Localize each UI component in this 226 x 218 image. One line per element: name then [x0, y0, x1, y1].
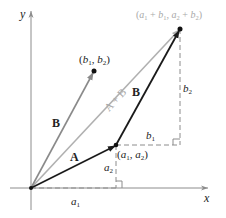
- origin-point: [29, 186, 33, 190]
- right-angle-markers: [116, 139, 180, 188]
- label-b-translated: B: [132, 85, 140, 99]
- vector-addition-diagram: x y A: [0, 0, 226, 218]
- right-angle-icon: [116, 181, 122, 188]
- y-axis-label: y: [19, 7, 26, 21]
- label-point-b: (b1, b2): [79, 53, 110, 67]
- label-b-origin: B: [52, 116, 60, 130]
- label-b2: b2: [183, 82, 193, 96]
- right-angle-icon: [173, 139, 180, 145]
- point-b: [92, 69, 97, 74]
- label-point-sum: (a1 + b1, a2 + b2): [136, 9, 202, 21]
- label-a: A: [70, 150, 79, 164]
- label-b1: b1: [146, 129, 156, 143]
- x-axis-label: x: [203, 191, 210, 205]
- label-point-a: (a1, a2): [117, 148, 148, 162]
- vector-b-from-origin: [31, 73, 93, 188]
- point-sum: [178, 27, 183, 32]
- label-a2: a2: [104, 161, 114, 175]
- label-a1: a1: [71, 195, 81, 209]
- label-a-plus-b: A + B: [102, 86, 129, 113]
- point-a: [114, 143, 119, 148]
